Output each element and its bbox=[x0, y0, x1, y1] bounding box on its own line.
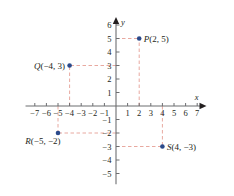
data-point-p[interactable] bbox=[137, 36, 142, 41]
x-axis-arrowhead bbox=[199, 103, 206, 109]
x-tick-label: −7 bbox=[30, 108, 39, 118]
y-tick-label: −3 bbox=[102, 142, 111, 152]
coordinate-plane-svg: −7−6−5−4−3−2−11234567−5−4−3−2−1123456 P(… bbox=[0, 0, 234, 196]
x-tick-label: 3 bbox=[149, 108, 153, 118]
y-tick-label: −5 bbox=[102, 169, 111, 179]
x-tick-label: 5 bbox=[172, 108, 176, 118]
y-tick-label: 3 bbox=[107, 61, 111, 71]
y-axis-name: y bbox=[120, 17, 125, 27]
y-tick-label: 4 bbox=[107, 47, 112, 57]
x-tick-label: 4 bbox=[160, 108, 165, 118]
data-point-r[interactable] bbox=[56, 131, 61, 136]
axes-layer bbox=[26, 17, 207, 184]
y-tick-label: 5 bbox=[107, 34, 111, 44]
y-axis-arrowhead bbox=[113, 17, 119, 24]
data-point-label-r: R(−5, −2) bbox=[24, 136, 60, 146]
y-tick-label: −1 bbox=[102, 115, 111, 125]
data-point-label-p: P(2, 5) bbox=[143, 34, 169, 44]
data-point-q[interactable] bbox=[67, 63, 72, 68]
data-point-label-q: Q(−4, 3) bbox=[34, 61, 65, 71]
x-tick-label: −6 bbox=[42, 108, 51, 118]
x-tick-label: 2 bbox=[137, 108, 141, 118]
x-tick-label: −3 bbox=[77, 108, 86, 118]
x-axis-name: x bbox=[194, 92, 199, 102]
tick-labels-layer: −7−6−5−4−3−2−11234567−5−4−3−2−1123456 bbox=[30, 20, 199, 179]
axis-names-layer: xy bbox=[120, 17, 199, 102]
y-tick-label: −4 bbox=[102, 155, 112, 165]
x-tick-label: −5 bbox=[53, 108, 62, 118]
x-tick-label: 1 bbox=[125, 108, 129, 118]
data-point-label-s: S(4, −3) bbox=[167, 142, 196, 152]
data-point-s[interactable] bbox=[160, 144, 165, 149]
y-tick-label: 1 bbox=[107, 88, 111, 98]
coordinate-plane-figure: −7−6−5−4−3−2−11234567−5−4−3−2−1123456 P(… bbox=[0, 0, 234, 196]
y-tick-label: −2 bbox=[102, 128, 111, 138]
x-tick-label: −4 bbox=[65, 108, 75, 118]
y-tick-label: 6 bbox=[107, 20, 111, 30]
y-tick-label: 2 bbox=[107, 74, 111, 84]
x-tick-label: 7 bbox=[195, 108, 199, 118]
x-tick-label: 6 bbox=[183, 108, 187, 118]
x-tick-label: −2 bbox=[88, 108, 97, 118]
